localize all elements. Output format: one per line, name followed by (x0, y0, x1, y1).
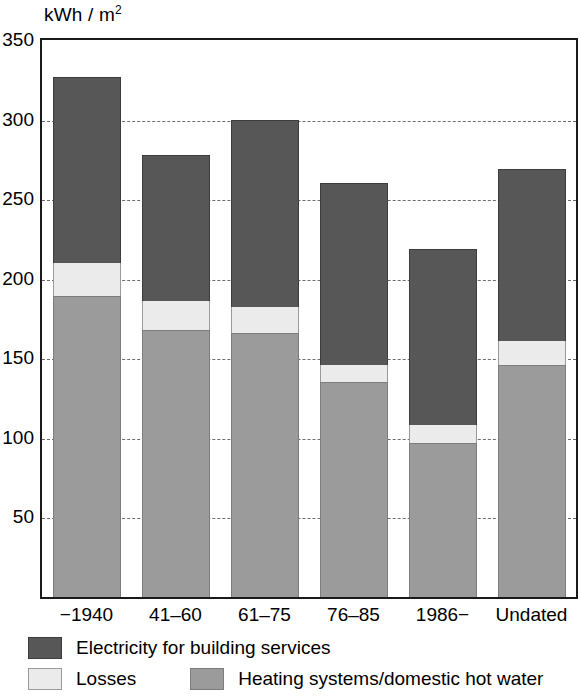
y-axis-unit-text: kWh / m (44, 4, 115, 25)
legend-row-secondary: Losses Heating systems/domestic hot wate… (28, 668, 543, 690)
x-axis-tick-label: −1940 (42, 604, 131, 626)
bar-segment-losses[interactable] (320, 365, 388, 383)
bar[interactable] (409, 249, 477, 598)
bar-segment-heating[interactable] (142, 330, 210, 597)
bar-segment-electricity[interactable] (320, 183, 388, 364)
bar-segment-electricity[interactable] (142, 155, 210, 301)
bar-segment-heating[interactable] (498, 365, 566, 597)
y-axis-unit-exponent: 2 (115, 3, 122, 17)
y-axis-tick-label: 350 (2, 29, 34, 51)
bar-segment-electricity[interactable] (409, 249, 477, 426)
bar-segment-heating[interactable] (231, 333, 299, 597)
bar-segment-losses[interactable] (498, 341, 566, 365)
bar-segment-losses[interactable] (409, 425, 477, 443)
bars-layer (42, 40, 576, 597)
legend-swatch-electricity-icon (28, 637, 62, 659)
legend-entry-losses: Losses (28, 668, 136, 690)
legend-label-losses: Losses (76, 668, 136, 690)
legend-row-primary: Electricity for building services (28, 637, 330, 659)
stacked-bar-chart: kWh / m2 50100150200250300350 −194041–60… (0, 0, 580, 698)
x-axis-tick-label: Undated (487, 604, 576, 626)
legend-swatch-heating-icon (190, 668, 224, 690)
bar-segment-electricity[interactable] (498, 169, 566, 341)
legend-swatch-losses-icon (28, 668, 62, 690)
bar[interactable] (142, 155, 210, 597)
chart-legend: Electricity for building services Losses… (28, 637, 580, 697)
bar-segment-electricity[interactable] (53, 77, 121, 263)
x-axis-tick-label: 1986− (398, 604, 487, 626)
y-axis-tick-label: 300 (2, 109, 34, 131)
bar-segment-heating[interactable] (409, 443, 477, 597)
bar[interactable] (53, 77, 121, 597)
bar[interactable] (320, 183, 388, 597)
x-axis-tick-label: 61–75 (220, 604, 309, 626)
y-axis-tick-label: 100 (2, 427, 34, 449)
legend-entry-heating: Heating systems/domestic hot water (190, 668, 543, 690)
y-axis-tick-label: 250 (2, 188, 34, 210)
x-axis-tick-label: 41–60 (131, 604, 220, 626)
legend-entry-electricity: Electricity for building services (28, 637, 330, 659)
bar-segment-heating[interactable] (53, 296, 121, 597)
legend-label-heating: Heating systems/domestic hot water (238, 668, 543, 690)
bar-segment-losses[interactable] (142, 301, 210, 330)
y-axis-tick-labels: 50100150200250300350 (0, 38, 36, 599)
bar[interactable] (231, 120, 299, 597)
y-axis-unit-label: kWh / m2 (44, 4, 122, 26)
bar-segment-electricity[interactable] (231, 120, 299, 308)
y-axis-tick-label: 150 (2, 347, 34, 369)
x-axis-tick-labels: −194041–6061–7576–851986−Undated (42, 604, 576, 632)
bar-segment-losses[interactable] (231, 307, 299, 332)
y-axis-tick-label: 200 (2, 268, 34, 290)
bar-segment-heating[interactable] (320, 382, 388, 597)
x-axis-tick-label: 76–85 (309, 604, 398, 626)
legend-label-electricity: Electricity for building services (76, 637, 330, 659)
bar[interactable] (498, 169, 566, 597)
bar-segment-losses[interactable] (53, 263, 121, 296)
y-axis-tick-label: 50 (13, 506, 34, 528)
